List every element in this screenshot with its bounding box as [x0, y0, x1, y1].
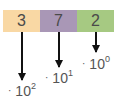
arrow-down-icon [21, 32, 23, 80]
arrow-down-icon [95, 32, 97, 52]
place-value-label-tens: ·101 [45, 70, 73, 85]
digit-cell-hundreds: 3 [3, 10, 40, 32]
digit-row: 3 7 2 [3, 10, 114, 32]
arrow-down-icon [58, 32, 60, 67]
digit-cell-ones: 2 [77, 10, 114, 32]
digit-cell-tens: 7 [40, 10, 77, 32]
place-value-label-hundreds: ·102 [8, 83, 36, 98]
place-value-label-ones: ·100 [82, 56, 110, 71]
